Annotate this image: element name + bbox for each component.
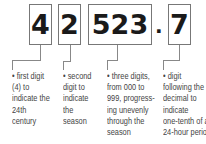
- digit-box-tenth: 7: [168, 4, 191, 45]
- connector-tenth-v2: [163, 60, 164, 70]
- description-century: • first digit (4) to indicate the 24th c…: [12, 71, 50, 127]
- digit-century: 4: [31, 9, 50, 40]
- connector-season-h: [63, 61, 71, 62]
- digit-box-century: 4: [29, 4, 52, 45]
- description-progress: • three digits, from 000 to 999, progres…: [107, 71, 155, 138]
- decimal-point: .: [155, 14, 163, 38]
- description-season: • second digit to indicate the season: [63, 71, 91, 127]
- digits-progress: 523: [92, 9, 148, 40]
- connector-season-v1: [70, 45, 71, 61]
- digit-box-progress: 523: [88, 4, 152, 45]
- connector-century-h: [12, 60, 41, 61]
- connector-progress-h: [107, 60, 118, 61]
- connector-progress-v2: [107, 60, 108, 70]
- connector-season-v2: [63, 61, 64, 70]
- digit-tenth: 7: [170, 9, 189, 40]
- digit-box-season: 2: [58, 4, 81, 45]
- connector-century-v1: [40, 45, 41, 60]
- connector-tenth-v1: [179, 45, 180, 60]
- connector-century-v2: [12, 60, 13, 70]
- connector-progress-v1: [117, 45, 118, 60]
- description-tenth: • digit following the decimal to indicat…: [163, 71, 206, 138]
- connector-tenth-h: [163, 60, 180, 61]
- digit-season: 2: [60, 9, 79, 40]
